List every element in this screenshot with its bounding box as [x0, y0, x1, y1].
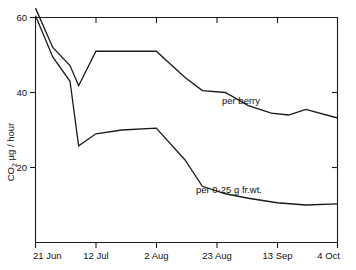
y-axis-label: CO2 µg / hour — [5, 123, 18, 182]
svg-text:CO2 µg / hour: CO2 µg / hour — [5, 123, 18, 182]
y-tick-marks-right — [332, 93, 338, 168]
x-tick-label-0: 21 Jun — [33, 250, 62, 261]
annotation-per-025g: per 0·25 g fr.wt. — [196, 184, 262, 195]
y-axis-label-suffix: µg / hour — [5, 123, 16, 163]
x-tick-label-1: 12 Jul — [83, 250, 108, 261]
annotation-per-berry: per berry — [222, 95, 260, 106]
chart-svg: 60 40 20 21 Jun 12 Jul 2 Aug 23 Aug 13 S — [0, 0, 356, 270]
x-tick-label-2: 2 Aug — [144, 250, 168, 261]
series-line-per-berry — [36, 8, 338, 118]
y-tick-marks — [30, 18, 36, 168]
y-tick-label-20: 20 — [16, 162, 27, 173]
data-series-group — [36, 8, 338, 205]
plot-frame — [35, 17, 338, 243]
y-tick-labels: 60 40 20 — [16, 12, 27, 173]
x-tick-label-4: 13 Sep — [262, 250, 292, 261]
x-tick-marks — [36, 243, 338, 249]
x-tick-label-5: 4 Oct — [317, 250, 340, 261]
y-axis-label-prefix: CO — [5, 167, 16, 181]
x-tick-labels: 21 Jun 12 Jul 2 Aug 23 Aug 13 Sep 4 Oct — [33, 250, 340, 261]
y-tick-label-60: 60 — [16, 12, 27, 23]
series-line-per-025g — [36, 16, 338, 205]
series-annotations: per berry per 0·25 g fr.wt. — [196, 95, 262, 195]
x-tick-label-3: 23 Aug — [202, 250, 232, 261]
x-tick-marks-top — [96, 18, 278, 24]
y-tick-label-40: 40 — [16, 87, 27, 98]
chart-figure: 60 40 20 21 Jun 12 Jul 2 Aug 23 Aug 13 S — [0, 0, 356, 270]
